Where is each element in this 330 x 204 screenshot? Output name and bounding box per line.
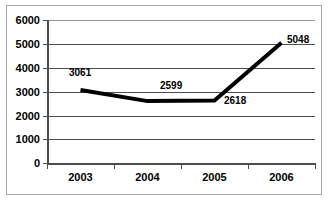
series-polyline	[81, 43, 282, 101]
data-label-2005: 2618	[224, 96, 246, 106]
data-label-2004: 2599	[160, 81, 182, 91]
data-label-2003: 3061	[69, 68, 91, 78]
line-chart: 6000 5000 4000 3000 2000 1000 0 2003 200…	[0, 0, 330, 204]
series-line	[0, 0, 330, 204]
data-label-2006: 5048	[287, 35, 309, 45]
